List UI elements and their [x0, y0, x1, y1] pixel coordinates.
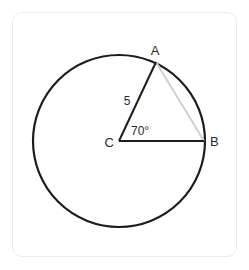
radius-length-label: 5 — [124, 94, 131, 108]
point-label-c: C — [105, 135, 114, 150]
circle-geometry-diagram: A B C 5 70° — [0, 0, 249, 270]
point-label-b: B — [210, 134, 219, 149]
point-label-a: A — [151, 43, 160, 58]
segment-chord-ab — [156, 62, 204, 141]
central-angle-label: 70° — [131, 124, 149, 138]
